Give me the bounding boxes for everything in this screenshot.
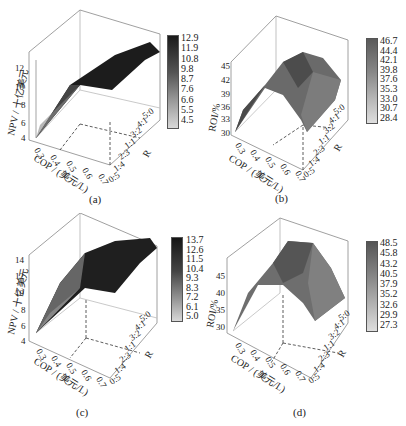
svg-text:0.7: 0.7: [293, 369, 308, 384]
svg-text:R: R: [140, 147, 153, 159]
svg-text:40: 40: [216, 288, 226, 298]
svg-text:NPV / 十亿美元: NPV / 十亿美元: [4, 68, 30, 137]
svg-text:0.7: 0.7: [94, 375, 109, 390]
svg-text:0.6: 0.6: [79, 368, 94, 383]
panel-a: 4 6 8 10 12 0.3 0.4 0.5 0.6 0.7 0:5 1:4 …: [0, 0, 203, 213]
svg-text:4: 4: [21, 133, 26, 143]
colorbar-c-labels: 13.7 12.6 11.5 10.4 9.3 8.3 7.2 6.1 5.0: [186, 235, 204, 321]
panel-b: 30 33 36 39 42 45 0.3 0.4 0.5 0.6 0.7 0:…: [203, 0, 406, 213]
svg-text:0.5: 0.5: [263, 355, 278, 370]
colorbar-a-labels: 12.9 11.9 10.8 9.8 8.7 7.6 6.6 5.5 4.5: [181, 33, 199, 126]
svg-text:30: 30: [221, 128, 231, 138]
svg-text:6: 6: [21, 118, 26, 128]
svg-text:42: 42: [221, 75, 230, 85]
svg-text:0.6: 0.6: [80, 166, 95, 181]
svg-text:45: 45: [221, 61, 231, 71]
svg-text:14: 14: [15, 255, 25, 265]
caption-c: (c): [76, 406, 88, 418]
cbar-tick: 27.3: [380, 320, 398, 330]
panel-c: 4 6 8 10 12 14 0.3 0.4 0.5 0.6 0.7 0:5 1…: [0, 213, 203, 426]
svg-text:6: 6: [21, 321, 26, 331]
svg-text:ROI/%: ROI/%: [206, 103, 222, 133]
svg-text:R: R: [335, 347, 348, 359]
svg-text:39: 39: [221, 89, 231, 99]
caption-d: (d): [293, 406, 306, 418]
caption-a: (a): [89, 193, 101, 205]
colorbar-d: [366, 241, 378, 332]
svg-text:R: R: [142, 348, 155, 360]
cbar-tick: 4.5: [181, 115, 199, 125]
svg-text:45: 45: [216, 271, 226, 281]
svg-text:NPV / 十亿美元: NPV / 十亿美元: [4, 267, 30, 336]
panel-d: 30 35 40 45 0.3 0.4 0.5 0.6 0.7 0:5 1:4 …: [203, 213, 406, 426]
colorbar-d-labels: 48.5 45.8 43.2 40.5 37.9 35.2 32.6 29.9 …: [380, 238, 398, 331]
colorbar-c: [171, 237, 183, 322]
caption-b: (b): [275, 192, 288, 204]
colorbar-b-labels: 46.7 44.4 42.1 39.8 37.6 35.3 33.0 30.7 …: [380, 36, 398, 122]
cbar-tick: 28.4: [380, 113, 398, 123]
svg-text:36: 36: [221, 102, 231, 112]
cbar-tick: 5.0: [186, 311, 204, 321]
svg-text:0.4: 0.4: [248, 348, 263, 363]
svg-text:30: 30: [216, 322, 226, 332]
colorbar-b: [366, 38, 378, 124]
svg-text:0.6: 0.6: [278, 362, 293, 377]
svg-text:33: 33: [221, 114, 231, 124]
svg-text:0.4: 0.4: [248, 148, 263, 163]
svg-text:0.5: 0.5: [263, 155, 278, 170]
svg-text:R: R: [331, 141, 344, 153]
svg-text:4: 4: [21, 336, 26, 346]
colorbar-a: [167, 35, 179, 129]
